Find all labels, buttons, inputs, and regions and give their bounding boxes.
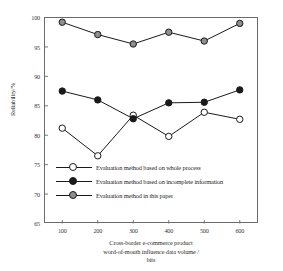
data-point-s1-x400 xyxy=(166,100,172,106)
data-point-s1-x500 xyxy=(201,99,207,105)
chart-legend: Evaluation method based on whole process… xyxy=(56,160,252,202)
series-2 xyxy=(59,19,243,47)
legend-marker-gray-circle-icon xyxy=(56,189,92,201)
series-1 xyxy=(59,87,243,122)
data-point-s0-x100 xyxy=(59,125,65,131)
data-point-s1-x300 xyxy=(130,116,136,122)
data-point-s0-x200 xyxy=(95,153,101,159)
series-0 xyxy=(59,109,243,159)
data-point-s0-x600 xyxy=(237,116,243,122)
data-point-s2-x300 xyxy=(130,41,136,47)
data-point-s2-x600 xyxy=(237,20,243,26)
x-axis-title-line-3: bits xyxy=(44,256,258,265)
x-axis-title-line-1: Cross-border e-commerce product xyxy=(44,239,258,248)
data-point-s2-x200 xyxy=(95,31,101,37)
chart-svg-layer xyxy=(0,0,283,271)
legend-item-incomplete-information[interactable]: Evaluation method based on incomplete in… xyxy=(56,174,252,188)
data-point-s1-x600 xyxy=(237,87,243,93)
legend-item-this-paper[interactable]: Evaluation method in this paper xyxy=(56,188,252,202)
data-point-s0-x500 xyxy=(201,109,207,115)
data-point-s2-x500 xyxy=(201,38,207,44)
legend-label-this-paper: Evaluation method in this paper xyxy=(92,192,173,199)
legend-item-whole-process[interactable]: Evaluation method based on whole process xyxy=(56,160,252,174)
x-axis-title: Cross-border e-commerce product word-of-… xyxy=(44,239,258,265)
data-point-s2-x400 xyxy=(166,29,172,35)
data-point-s2-x100 xyxy=(59,19,65,25)
legend-label-incomplete-information: Evaluation method based on incomplete in… xyxy=(92,178,223,185)
legend-marker-open-circle-icon xyxy=(56,161,92,173)
chart-root: Reliability/% 10095908580757065 10020030… xyxy=(0,0,283,271)
data-point-s1-x100 xyxy=(59,88,65,94)
x-axis-title-line-2: word-of-mouth influence data volume / xyxy=(44,248,258,257)
data-series-layer xyxy=(59,19,243,159)
data-point-s1-x200 xyxy=(95,97,101,103)
legend-label-whole-process: Evaluation method based on whole process xyxy=(92,164,201,171)
data-point-s0-x400 xyxy=(166,133,172,139)
legend-marker-filled-circle-icon xyxy=(56,175,92,187)
